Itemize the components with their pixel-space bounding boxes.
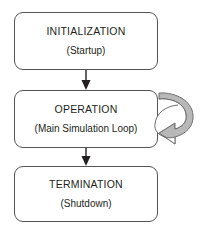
arrowhead-down-icon <box>82 156 91 166</box>
loop-arrow-icon <box>159 93 193 144</box>
loop-arrow-head-icon <box>155 99 186 144</box>
flowchart-diagram: INITIALIZATION (Startup) OPERATION (Main… <box>0 0 207 236</box>
flow-node-initialization-subtitle: (Startup) <box>67 44 106 58</box>
flow-node-termination-title: TERMINATION <box>49 177 123 191</box>
flow-node-operation[interactable]: OPERATION (Main Simulation Loop) <box>14 90 158 148</box>
edge-init-to-operation <box>82 70 91 90</box>
flow-node-termination[interactable]: TERMINATION (Shutdown) <box>14 166 158 222</box>
edge-operation-to-termination <box>82 148 91 166</box>
arrowhead-down-icon <box>82 80 91 90</box>
flow-node-initialization[interactable]: INITIALIZATION (Startup) <box>14 12 158 70</box>
flow-node-termination-subtitle: (Shutdown) <box>60 197 111 211</box>
flow-node-initialization-title: INITIALIZATION <box>46 24 125 38</box>
flow-node-operation-title: OPERATION <box>55 102 118 116</box>
flow-node-operation-subtitle: (Main Simulation Loop) <box>35 122 138 136</box>
